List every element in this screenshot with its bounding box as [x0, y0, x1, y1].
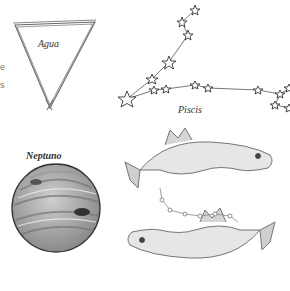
pisces-constellation	[0, 0, 290, 120]
pisces-fish-illustration	[110, 110, 290, 291]
illustration-canvas: e s Agua	[0, 0, 290, 291]
star-icon	[118, 5, 290, 112]
